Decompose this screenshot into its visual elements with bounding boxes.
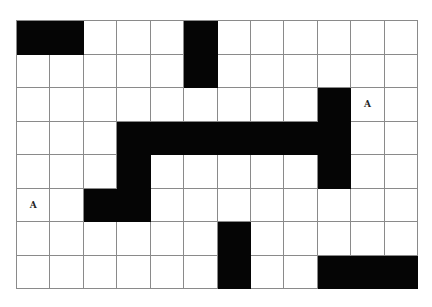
grid-cell: [251, 88, 284, 122]
grid-cell: [385, 88, 418, 122]
grid-cell: [117, 222, 150, 256]
grid-cell: [385, 222, 418, 256]
wall-cell: [218, 122, 251, 156]
grid-cell: [151, 222, 184, 256]
grid-cell: [351, 189, 384, 223]
maze-grid: AA: [16, 20, 418, 289]
grid-cell: [84, 256, 117, 290]
grid-cell: [84, 55, 117, 89]
grid-cell: [251, 189, 284, 223]
grid-cell: [284, 256, 317, 290]
wall-cell: [117, 122, 150, 156]
grid-cell: [117, 21, 150, 55]
grid-cell: [284, 155, 317, 189]
grid-cell: [184, 189, 217, 223]
grid-cell: [284, 222, 317, 256]
grid-cell: [17, 256, 50, 290]
grid-cell: [50, 88, 83, 122]
grid-cell: [318, 55, 351, 89]
wall-cell: [17, 21, 50, 55]
grid-cell: [17, 55, 50, 89]
grid-cell: [251, 222, 284, 256]
grid-cell: [218, 88, 251, 122]
grid-cell: [385, 21, 418, 55]
grid-cell: [17, 222, 50, 256]
grid-cell: [17, 122, 50, 156]
grid-cell: [184, 256, 217, 290]
wall-cell: [318, 122, 351, 156]
grid-cell: [184, 222, 217, 256]
grid-cell: [284, 189, 317, 223]
grid-cell: [50, 155, 83, 189]
grid-cell: [218, 55, 251, 89]
grid-cell: [50, 55, 83, 89]
wall-cell: [184, 122, 217, 156]
wall-cell: [184, 21, 217, 55]
grid-cell: [17, 155, 50, 189]
wall-cell: [318, 155, 351, 189]
grid-cell: [50, 122, 83, 156]
grid-cell: [84, 222, 117, 256]
grid-cell: [151, 88, 184, 122]
wall-cell: [318, 256, 351, 290]
wall-cell: [351, 256, 384, 290]
grid-cell: [251, 256, 284, 290]
grid-cell: [318, 222, 351, 256]
grid-cell: [151, 55, 184, 89]
grid-cell: [184, 88, 217, 122]
grid-cell: [151, 189, 184, 223]
grid-cell: [50, 222, 83, 256]
grid-cell: [385, 122, 418, 156]
grid-cell: A: [351, 88, 384, 122]
grid-cell: [117, 55, 150, 89]
grid-cell: [351, 55, 384, 89]
grid-cell: [218, 21, 251, 55]
grid-cell: [84, 21, 117, 55]
grid-cell: [17, 88, 50, 122]
grid-cell: [151, 155, 184, 189]
grid-cell: [218, 155, 251, 189]
cell-label: A: [30, 200, 37, 210]
grid-cell: [351, 21, 384, 55]
wall-cell: [284, 122, 317, 156]
wall-cell: [184, 55, 217, 89]
cell-label: A: [364, 99, 371, 109]
wall-cell: [117, 189, 150, 223]
grid-cell: [218, 189, 251, 223]
grid-cell: [251, 21, 284, 55]
grid-cell: [351, 122, 384, 156]
grid-cell: [84, 155, 117, 189]
grid-cell: [251, 55, 284, 89]
grid-cell: [151, 256, 184, 290]
grid-cell: [351, 222, 384, 256]
grid-cell: [117, 256, 150, 290]
grid-cell: [284, 55, 317, 89]
grid-cell: [151, 21, 184, 55]
grid-cell: [251, 155, 284, 189]
grid-cell: [385, 155, 418, 189]
grid-cell: [50, 256, 83, 290]
wall-cell: [151, 122, 184, 156]
grid-cell: [84, 88, 117, 122]
wall-cell: [218, 256, 251, 290]
grid-cell: [318, 21, 351, 55]
grid-cell: [284, 88, 317, 122]
grid-cell: [284, 21, 317, 55]
grid-cell: [351, 155, 384, 189]
grid-cell: [318, 189, 351, 223]
wall-cell: [251, 122, 284, 156]
wall-cell: [385, 256, 418, 290]
grid-cell: [50, 189, 83, 223]
wall-cell: [117, 155, 150, 189]
grid-cell: A: [17, 189, 50, 223]
grid-cell: [84, 122, 117, 156]
grid-cell: [184, 155, 217, 189]
wall-cell: [318, 88, 351, 122]
grid-cell: [385, 55, 418, 89]
grid-cell: [385, 189, 418, 223]
grid-cell: [117, 88, 150, 122]
wall-cell: [84, 189, 117, 223]
wall-cell: [218, 222, 251, 256]
wall-cell: [50, 21, 83, 55]
